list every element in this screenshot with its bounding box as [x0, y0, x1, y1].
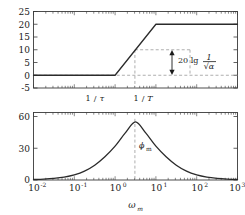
svg-text:10: 10 [110, 183, 122, 193]
phi-m-subscript: m [146, 145, 152, 152]
xtick-label-5: 10 3 [229, 181, 245, 193]
magnitude-ytick-label-4: 5 [24, 58, 30, 68]
magnitude-ytick-label-3: 10 [19, 45, 31, 55]
xtick-label-3: 10 1 [151, 181, 168, 193]
x-axis-label-subscript: m [137, 205, 143, 212]
xtick-label-1: 10 -1 [69, 181, 87, 193]
magnitude-gain-arrow [169, 50, 174, 75]
svg-text:-2: -2 [41, 181, 47, 188]
magnitude-ytick-label-0: 25 [19, 7, 31, 17]
phi-m-symbol: ϕ [139, 141, 145, 150]
xtick-label-4: 10 2 [191, 181, 208, 193]
x-axis-label: ω m [128, 200, 143, 212]
magnitude-plot: 25 20 15 10 5 0 -5 [19, 7, 238, 94]
svg-text:3: 3 [242, 181, 245, 188]
x-axis-label-symbol: ω [128, 200, 136, 210]
svg-text:2: 2 [204, 181, 208, 188]
magnitude-ytick-label-2: 15 [19, 32, 31, 42]
corner-frequency-labels: 1 / τ 1 / T [85, 94, 153, 103]
corner-label-T-den: T [147, 94, 153, 103]
gain-annotation-prefix: 20 lg [178, 56, 198, 65]
phi-m-label: ϕ m [139, 141, 152, 152]
corner-label-1-over-tau: 1 / τ [85, 94, 104, 103]
gain-annotation-denominator: √α [204, 62, 215, 71]
phase-ytick-label-0: 60 [19, 112, 31, 122]
phase-ytick-label-1: 30 [19, 144, 31, 154]
phase-curve [34, 122, 238, 180]
svg-text:10: 10 [69, 183, 81, 193]
svg-text:0: 0 [123, 181, 127, 188]
corner-label-tau-num: 1 [85, 94, 90, 103]
magnitude-ytick-label-5: 0 [24, 71, 30, 81]
magnitude-ytick-label-6: -5 [21, 83, 30, 93]
svg-text:10: 10 [151, 183, 163, 193]
gain-annotation-numerator: 1 [206, 53, 211, 62]
phase-plot: 60 30 0 ϕ m [19, 112, 238, 186]
bode-diagram: 25 20 15 10 5 0 -5 [0, 0, 245, 215]
corner-label-T-num: 1 [133, 94, 138, 103]
corner-label-T-slash: / [142, 94, 145, 103]
x-axis-tick-labels: 10 -2 10 -1 10 0 10 1 10 2 10 3 [28, 181, 245, 193]
gain-annotation: 20 lg 1 √α [178, 53, 216, 72]
corner-label-tau-slash: / [94, 94, 97, 103]
phase-plot-frame [34, 113, 238, 181]
magnitude-ytick-label-1: 20 [19, 20, 31, 30]
phase-x-minor-ticks [34, 113, 238, 181]
figure-container: 25 20 15 10 5 0 -5 [0, 0, 245, 215]
svg-text:10: 10 [28, 183, 40, 193]
xtick-label-0: 10 -2 [28, 181, 46, 193]
phase-y-ticks [34, 117, 238, 181]
svg-text:1: 1 [163, 181, 167, 188]
corner-label-1-over-T: 1 / T [133, 94, 153, 103]
svg-text:10: 10 [229, 183, 241, 193]
svg-text:-1: -1 [81, 181, 87, 188]
corner-label-tau-den: τ [100, 94, 105, 103]
xtick-label-2: 10 0 [110, 181, 127, 193]
svg-text:10: 10 [191, 183, 203, 193]
